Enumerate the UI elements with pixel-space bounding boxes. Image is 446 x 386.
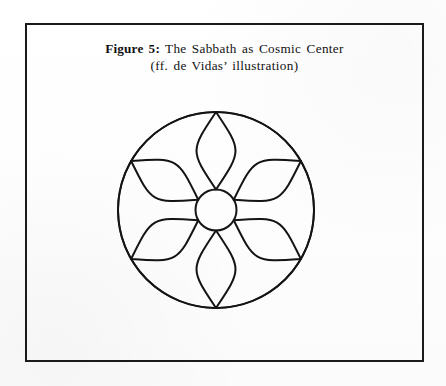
figure-caption: Figure 5: The Sabbath as Cosmic Center (… [25,40,424,74]
caption-line-1: Figure 5: The Sabbath as Cosmic Center [25,40,424,57]
figure-title-text: The Sabbath as Cosmic Center [160,41,344,56]
figure-number-label: Figure 5: [105,41,160,56]
caption-line-2: (ff. de Vidas’ illustration) [25,57,424,74]
figure-page: Figure 5: The Sabbath as Cosmic Center (… [0,0,446,386]
